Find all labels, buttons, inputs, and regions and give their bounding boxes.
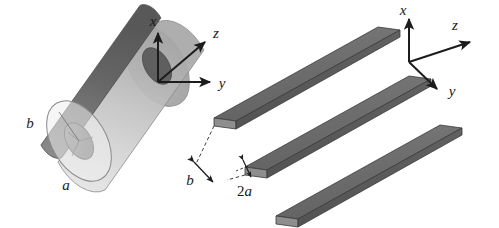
cylinder-b-label: b <box>26 115 34 131</box>
slab-2a-number: 2 <box>237 183 245 199</box>
cylinder-x-label: x <box>149 13 157 29</box>
slab-b-label: b <box>186 172 194 188</box>
cylinder-y-label: y <box>217 75 226 91</box>
slab-2a-variable: a <box>245 183 253 199</box>
slab-2a-label: 2a <box>237 183 252 199</box>
slabs-z-label: z <box>451 17 458 33</box>
cylinder-a-label: a <box>62 177 70 193</box>
slabs-x-label: x <box>399 2 407 18</box>
cylinder-z-label: z <box>212 25 219 41</box>
slabs-y-label: y <box>447 83 456 99</box>
geometry-comparison-figure: x y z b a <box>0 0 499 228</box>
figure-canvas: x y z b a <box>0 0 499 228</box>
